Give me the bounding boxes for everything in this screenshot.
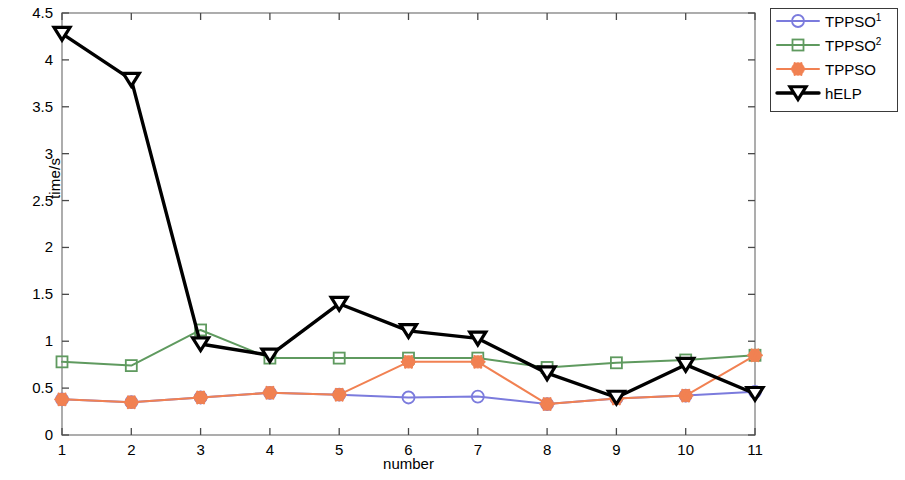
y-axis-ticks: 00.511.522.533.544.5 bbox=[32, 4, 755, 443]
y-tick-label: 0.5 bbox=[32, 379, 53, 396]
y-tick-label: 4 bbox=[45, 51, 53, 68]
legend-label: TPPSO1 bbox=[825, 14, 881, 29]
series-TPPSO1 bbox=[56, 386, 761, 410]
series-layer bbox=[54, 27, 763, 410]
legend-marker-star-icon bbox=[775, 58, 821, 80]
series-hELP bbox=[54, 27, 763, 404]
legend-marker-square-icon bbox=[775, 34, 821, 56]
legend-marker-triangle-down-icon bbox=[775, 82, 821, 104]
y-tick-label: 3.5 bbox=[32, 98, 53, 115]
y-tick-label: 0 bbox=[45, 426, 53, 443]
legend-label: TPPSO2 bbox=[825, 38, 881, 53]
y-tick-label: 4.5 bbox=[32, 4, 53, 21]
chart-legend: TPPSO1TPPSO2TPPSOhELP bbox=[770, 8, 898, 112]
y-axis-label: time/s bbox=[46, 119, 63, 239]
legend-item-TPPSO2[interactable]: TPPSO2 bbox=[771, 33, 897, 57]
chart-screenshot: 00.511.522.533.544.5 1234567891011 time/… bbox=[0, 0, 905, 480]
legend-item-TPPSO[interactable]: TPPSO bbox=[771, 57, 897, 81]
legend-label-superscript: 1 bbox=[876, 12, 882, 23]
legend-label: TPPSO bbox=[825, 62, 876, 77]
legend-label: hELP bbox=[825, 86, 862, 101]
legend-marker-circle-icon bbox=[775, 10, 821, 32]
legend-item-TPPSO1[interactable]: TPPSO1 bbox=[771, 9, 897, 33]
x-axis-label: number bbox=[62, 455, 755, 472]
legend-item-hELP[interactable]: hELP bbox=[771, 81, 897, 105]
legend-label-superscript: 2 bbox=[876, 36, 882, 47]
y-tick-label: 2 bbox=[45, 238, 53, 255]
y-tick-label: 1 bbox=[45, 332, 53, 349]
y-tick-label: 1.5 bbox=[32, 285, 53, 302]
axis-frame bbox=[62, 13, 755, 435]
